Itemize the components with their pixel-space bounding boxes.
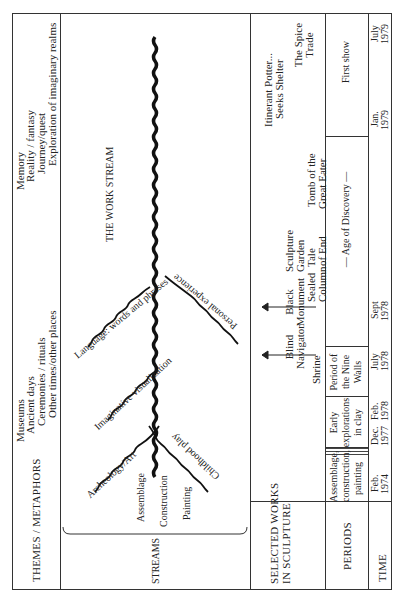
periods-label: PERIODS bbox=[341, 502, 353, 590]
work-stream-label: THE WORK STREAM bbox=[104, 147, 116, 242]
period-assemblage-1: Assemblage, bbox=[328, 455, 340, 502]
period-age-of-discovery: — Age of Discovery — bbox=[340, 137, 352, 302]
work-sculpture-garden-4: of End bbox=[316, 236, 328, 266]
work-itinerant-2: Seeks Shelter bbox=[273, 59, 285, 119]
work-spice-trade-2: Trade bbox=[303, 15, 315, 75]
streams-label: STREAMS bbox=[150, 538, 162, 584]
time-date-year: 1974 bbox=[379, 474, 391, 494]
origin-construction: Construction bbox=[158, 475, 170, 527]
period-clay-3: in clay bbox=[352, 397, 364, 448]
works-label-2: IN SCULPTURE bbox=[280, 503, 292, 584]
period-nine-walls-2: the Nine bbox=[340, 347, 352, 397]
time-date-year: 1978 bbox=[379, 301, 391, 321]
period-clay-2: explorations bbox=[340, 397, 352, 448]
period-clay-1: Early bbox=[328, 397, 340, 448]
work-sealed-column-2: Column bbox=[316, 267, 328, 302]
origin-assemblage: Assemblage bbox=[135, 473, 147, 522]
work-stream-diagram: THEMES / METAPHORS Museums Ancient days … bbox=[0, 0, 407, 602]
works-label-1: SELECTED WORKS bbox=[268, 483, 280, 584]
time-date-year: 1978 bbox=[379, 351, 391, 371]
work-shrine: Shrine bbox=[310, 355, 322, 384]
time-date-year: 1979 bbox=[379, 24, 391, 44]
period-assemblage-3: painting bbox=[352, 455, 364, 502]
period-assemblage-2: construction, bbox=[340, 455, 352, 502]
diagram-stage: THEMES / METAPHORS Museums Ancient days … bbox=[0, 0, 407, 602]
time-label: TIME bbox=[376, 554, 388, 582]
origin-painting: Painting bbox=[181, 487, 193, 520]
time-date-year: 1978 bbox=[379, 401, 391, 421]
period-first-show: First show bbox=[340, 22, 352, 102]
time-date-year: 1979 bbox=[379, 110, 391, 130]
period-nine-walls-3: Walls bbox=[352, 347, 364, 397]
bracket-top bbox=[63, 527, 247, 534]
work-tomb-2: Great Eater bbox=[316, 159, 328, 209]
period-nine-walls-1: Period of bbox=[328, 347, 340, 397]
time-date-year: 1977 bbox=[379, 426, 391, 446]
